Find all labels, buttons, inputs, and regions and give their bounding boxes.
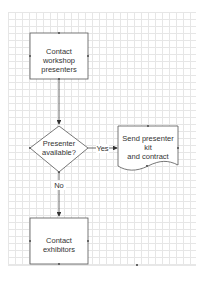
node-label-contact-exhibitors: Contact exhibitors bbox=[30, 236, 88, 254]
label-line: Presenter bbox=[34, 139, 84, 148]
label-line: and contract bbox=[118, 152, 178, 161]
edge-label-yes: Yes bbox=[96, 144, 109, 153]
connection-point[interactable] bbox=[58, 78, 60, 80]
label-line: Contact workshop bbox=[30, 47, 88, 65]
node-label-presenter-available: Presenter available? bbox=[34, 139, 84, 157]
node-label-send-kit: Send presenter kit and contract bbox=[118, 134, 178, 161]
connection-point[interactable] bbox=[29, 147, 31, 149]
connection-point[interactable] bbox=[58, 263, 60, 265]
node-label-contact-presenters: Contact workshop presenters bbox=[30, 47, 88, 74]
edge-label-no: No bbox=[52, 181, 66, 190]
label-line: Contact exhibitors bbox=[43, 236, 75, 254]
diagram-canvas[interactable]: Contact workshop presenters Presenter av… bbox=[0, 0, 204, 290]
connection-point[interactable] bbox=[146, 165, 148, 167]
label-line: presenters bbox=[30, 65, 88, 74]
label-line: Send presenter kit bbox=[118, 134, 178, 152]
page-marker bbox=[136, 264, 138, 266]
label-line: available? bbox=[34, 148, 84, 157]
connection-point[interactable] bbox=[58, 32, 60, 34]
connection-point[interactable] bbox=[147, 125, 149, 127]
